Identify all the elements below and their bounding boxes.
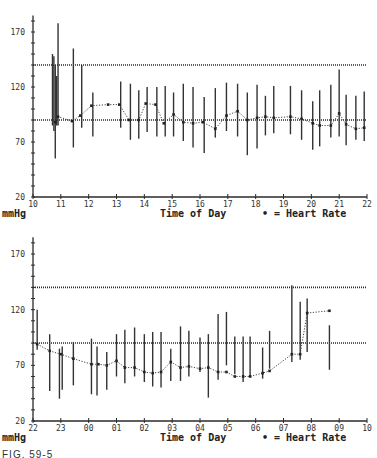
- x-axis-title-top: Time of Day: [160, 208, 226, 219]
- y-tick-label: 70: [15, 361, 25, 370]
- heart-rate-point: [90, 363, 93, 366]
- y-unit-label-top: mmHg: [2, 208, 26, 219]
- x-tick-label: 22: [362, 200, 372, 209]
- y-tick-label: 170: [11, 250, 26, 259]
- x-tick-label: 22: [28, 424, 38, 433]
- heart-rate-point: [172, 113, 175, 116]
- x-axis-title-bottom: Time of Day: [160, 432, 226, 443]
- heart-rate-point: [179, 366, 182, 369]
- x-tick-label: 01: [112, 424, 122, 433]
- heart-rate-point: [118, 103, 121, 106]
- x-tick-label: 06: [251, 424, 261, 433]
- heart-rate-point: [60, 353, 63, 356]
- heart-rate-point: [97, 363, 100, 366]
- heart-rate-point: [124, 366, 127, 369]
- x-tick-label: 14: [140, 200, 150, 209]
- heart-rate-point: [233, 375, 236, 378]
- y-tick-label: 20: [15, 417, 25, 426]
- heart-rate-point: [236, 110, 239, 113]
- y-tick-label: 170: [11, 28, 26, 37]
- x-tick-label: 18: [251, 200, 261, 209]
- heart-rate-point: [169, 361, 172, 364]
- heart-rate-point: [256, 117, 259, 120]
- heart-rate-point: [137, 119, 140, 122]
- heart-rate-point: [192, 122, 195, 125]
- heart-rate-point: [48, 350, 51, 353]
- heart-rate-point: [300, 118, 303, 121]
- heart-rate-point: [318, 124, 321, 127]
- heart-rate-point: [330, 124, 333, 127]
- heart-rate-point: [242, 375, 245, 378]
- x-tick-label: 10: [28, 200, 38, 209]
- heart-rate-point: [105, 364, 108, 367]
- heart-rate-point: [160, 371, 163, 374]
- heart-rate-point: [363, 126, 366, 129]
- heart-rate-point: [214, 128, 217, 131]
- heart-rate-point: [207, 366, 210, 369]
- heart-rate-line: [55, 104, 364, 129]
- heart-rate-point: [163, 122, 166, 125]
- figure-caption: FIG. 59-5: [2, 449, 53, 458]
- heart-rate-point: [249, 375, 252, 378]
- heart-rate-point: [151, 372, 154, 375]
- heart-rate-point: [144, 102, 147, 105]
- heart-rate-point: [133, 366, 136, 369]
- heart-rate-point: [154, 103, 157, 106]
- x-tick-label: 10: [362, 424, 372, 433]
- heart-rate-point: [199, 367, 202, 370]
- heart-rate-point: [246, 119, 249, 122]
- heart-rate-point: [217, 371, 220, 374]
- y-tick-label: 70: [15, 138, 25, 147]
- x-tick-label: 23: [56, 424, 66, 433]
- heart-rate-point: [201, 121, 204, 124]
- x-tick-label: 02: [140, 424, 150, 433]
- heart-rate-point: [188, 365, 191, 368]
- y-unit-label-bottom: mmHg: [2, 432, 26, 443]
- heart-rate-point: [143, 371, 146, 374]
- heart-rate-point: [128, 119, 131, 122]
- heart-rate-point: [289, 115, 292, 118]
- y-tick-label: 120: [11, 83, 26, 92]
- x-tick-label: 12: [84, 200, 94, 209]
- daytime-bp-chart-panel: 207012017010111213141516171819202122: [11, 16, 372, 210]
- heart-rate-point: [225, 371, 228, 374]
- ambulatory-bp-chart: 207012017010111213141516171819202122 207…: [0, 0, 377, 458]
- legend-heart-rate-top: • = Heart Rate: [262, 208, 346, 219]
- heart-rate-point: [261, 372, 264, 375]
- x-tick-label: 00: [84, 424, 94, 433]
- heart-rate-point: [328, 309, 331, 312]
- y-tick-label: 20: [15, 193, 25, 202]
- heart-rate-point: [90, 104, 93, 107]
- heart-rate-point: [54, 121, 57, 124]
- heart-rate-point: [72, 357, 75, 360]
- nighttime-bp-chart-panel: 207012017022230001020304050607080910: [11, 237, 372, 433]
- heart-rate-point: [291, 353, 294, 356]
- heart-rate-point: [338, 112, 341, 115]
- heart-rate-point: [107, 103, 110, 106]
- heart-rate-point: [311, 122, 314, 125]
- heart-rate-point: [345, 123, 348, 126]
- heart-rate-point: [306, 312, 309, 315]
- heart-rate-point: [268, 370, 271, 373]
- legend-heart-rate-bottom: • = Heart Rate: [262, 432, 346, 443]
- heart-rate-point: [79, 114, 82, 117]
- heart-rate-point: [57, 115, 60, 118]
- heart-rate-point: [272, 117, 275, 120]
- x-tick-label: 13: [112, 200, 122, 209]
- heart-rate-point: [71, 120, 74, 123]
- heart-rate-point: [182, 121, 185, 124]
- y-tick-label: 120: [11, 306, 26, 315]
- heart-rate-point: [264, 115, 267, 118]
- heart-rate-point: [225, 114, 228, 117]
- x-tick-label: 11: [56, 200, 66, 209]
- heart-rate-point: [36, 343, 39, 346]
- heart-rate-point: [355, 128, 358, 131]
- heart-rate-point: [115, 360, 118, 363]
- heart-rate-point: [299, 353, 302, 356]
